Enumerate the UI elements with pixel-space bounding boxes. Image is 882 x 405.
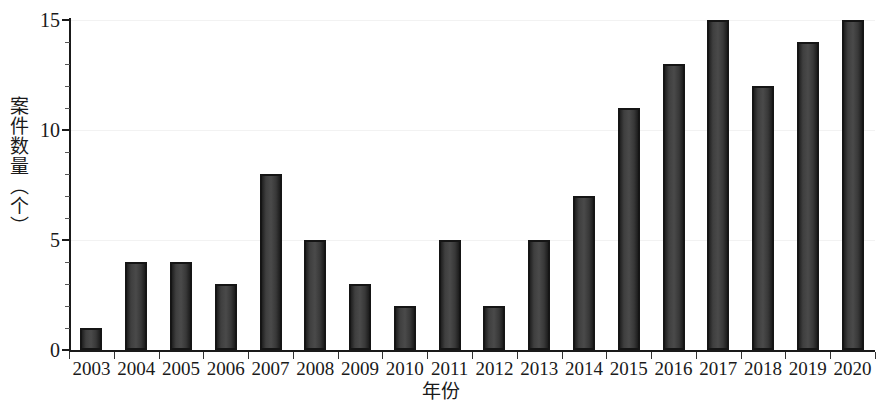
x-axis-label-2005: 2005 [157,359,205,378]
bar-2007 [260,174,282,350]
x-axis-label-2013: 2013 [515,359,563,378]
x-tick-5 [293,352,294,359]
bar-2013 [528,240,550,350]
bar-2017 [707,20,729,350]
x-tick-7 [382,352,383,359]
bar-chart-figure: 案件数量（个） 051015 2003200420052006200720082… [0,0,882,405]
y-tick-minor-3 [65,284,70,285]
x-tick-12 [606,352,607,359]
x-axis-label-2020: 2020 [829,359,877,378]
x-axis-label-2018: 2018 [739,359,787,378]
x-axis-label-2014: 2014 [560,359,608,378]
y-tick-minor-8 [65,174,70,175]
bar-2011 [439,240,461,350]
y-axis-label-5: 5 [30,230,60,250]
x-axis-label-2006: 2006 [202,359,250,378]
bar-2003 [80,328,102,350]
x-axis-label-2019: 2019 [784,359,832,378]
bar-2020 [842,20,864,350]
y-tick-major-15 [62,19,71,21]
y-tick-minor-7 [65,196,70,197]
x-axis-label-2003: 2003 [67,359,115,378]
x-tick-8 [427,352,428,359]
y-axis-label-15: 15 [30,10,60,30]
bar-2016 [663,64,685,350]
x-tick-2 [159,352,160,359]
bar-2006 [215,284,237,350]
bar-2004 [125,262,147,350]
y-tick-minor-13 [65,64,70,65]
x-tick-11 [562,352,563,359]
x-axis-label-2015: 2015 [605,359,653,378]
x-tick-13 [651,352,652,359]
x-tick-6 [338,352,339,359]
x-axis-label-2016: 2016 [650,359,698,378]
x-tick-17 [830,352,831,359]
y-tick-major-10 [62,129,71,131]
x-tick-15 [741,352,742,359]
bar-2015 [618,108,640,350]
bar-2008 [304,240,326,350]
x-tick-1 [114,352,115,359]
y-axis-line [69,18,71,352]
y-tick-minor-14 [65,42,70,43]
x-axis-label-2004: 2004 [112,359,160,378]
x-tick-16 [785,352,786,359]
x-axis-label-2012: 2012 [470,359,518,378]
y-tick-minor-11 [65,108,70,109]
plot-area [69,18,875,352]
x-axis-label-2009: 2009 [336,359,384,378]
y-tick-minor-12 [65,86,70,87]
x-axis-title: 年份 [0,382,882,401]
bar-2012 [483,306,505,350]
y-tick-minor-1 [65,328,70,329]
x-axis-label-2011: 2011 [426,359,474,378]
y-tick-minor-9 [65,152,70,153]
y-tick-major-5 [62,239,71,241]
y-axis-label-0: 0 [30,340,60,360]
y-tick-minor-4 [65,262,70,263]
x-axis-label-2017: 2017 [694,359,742,378]
bar-2010 [394,306,416,350]
bar-2019 [797,42,819,350]
y-tick-minor-6 [65,218,70,219]
bar-2014 [573,196,595,350]
x-tick-14 [696,352,697,359]
x-axis-label-2008: 2008 [291,359,339,378]
bar-2009 [349,284,371,350]
gridline-15 [71,20,875,21]
bar-2005 [170,262,192,350]
x-tick-18 [875,352,876,359]
bar-2018 [752,86,774,350]
x-tick-9 [472,352,473,359]
x-tick-0 [69,352,70,359]
x-axis-label-2007: 2007 [247,359,295,378]
y-tick-minor-2 [65,306,70,307]
y-axis-title: 案件数量（个） [2,96,28,236]
x-tick-3 [203,352,204,359]
y-axis-label-10: 10 [30,120,60,140]
x-tick-4 [248,352,249,359]
x-tick-10 [517,352,518,359]
x-axis-label-2010: 2010 [381,359,429,378]
